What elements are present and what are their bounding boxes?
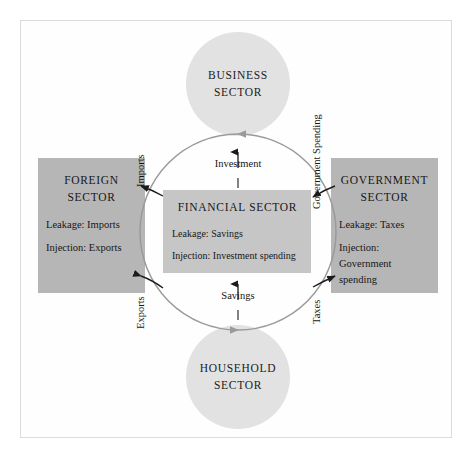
exports-flow-label: Exports xyxy=(135,296,146,329)
financial-sector-node: FINANCIAL SECTOR Leakage: Savings Inject… xyxy=(163,190,311,273)
financial-sector-injection: Injection: Investment spending xyxy=(172,248,303,263)
imports-flow-label: Imports xyxy=(135,154,146,187)
financial-sector-title: FINANCIAL SECTOR xyxy=(172,199,303,216)
government-spending-flow-label: Government Spending xyxy=(311,114,322,209)
investment-flow-label: Investment xyxy=(193,158,283,169)
imports-connector-arrow xyxy=(141,186,163,196)
savings-flow-label: Savings xyxy=(193,290,283,301)
financial-sector-leakage: Leakage: Savings xyxy=(172,226,303,241)
diagram-canvas: BUSINESS SECTOR HOUSEHOLD SECTOR FOREIGN… xyxy=(0,0,474,461)
taxes-flow-label: Taxes xyxy=(311,300,322,324)
